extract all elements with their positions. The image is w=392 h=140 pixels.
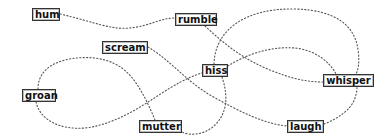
node-groan: groan bbox=[22, 89, 56, 102]
node-hum: hum bbox=[32, 8, 60, 21]
edge-hiss-mutter bbox=[182, 77, 226, 134]
edge-laugh-whisper bbox=[324, 87, 357, 124]
node-hiss: hiss bbox=[202, 64, 228, 77]
node-whisper: whisper bbox=[323, 74, 374, 87]
edge-hiss-whisper bbox=[228, 48, 336, 74]
node-scream: scream bbox=[102, 41, 148, 54]
edge-hiss-whisper bbox=[214, 9, 359, 74]
edge-hum-rumble bbox=[60, 14, 175, 28]
node-rumble: rumble bbox=[175, 13, 217, 26]
node-laugh: laugh bbox=[287, 120, 324, 133]
edge-scream-laugh bbox=[148, 47, 287, 126]
node-mutter: mutter bbox=[139, 120, 182, 133]
word-network-diagram: hum rumble scream hiss whisper groan mut… bbox=[0, 0, 392, 140]
